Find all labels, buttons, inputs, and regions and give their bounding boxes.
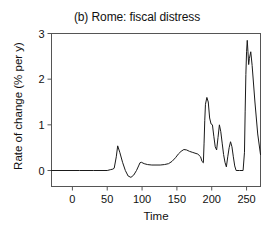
plot-canvas: 0501001502002500123 — [0, 0, 274, 239]
plot-frame — [52, 34, 261, 187]
y-tick-label: 2 — [38, 73, 44, 85]
y-axis-label: Rate of change (% per y) — [12, 26, 24, 186]
data-line-rate-of-change — [52, 40, 261, 177]
y-tick-label: 3 — [38, 28, 44, 40]
y-tick-label: 0 — [38, 165, 44, 177]
x-tick-label: 200 — [203, 193, 221, 205]
x-tick-label: 150 — [168, 193, 186, 205]
x-axis-label: Time — [51, 210, 261, 222]
x-tick-label: 100 — [133, 193, 151, 205]
y-tick-label: 1 — [38, 119, 44, 131]
x-tick-label: 0 — [69, 193, 75, 205]
chart-figure: (b) Rome: fiscal distress 05010015020025… — [0, 0, 274, 239]
x-tick-label: 50 — [101, 193, 113, 205]
x-tick-label: 250 — [237, 193, 255, 205]
